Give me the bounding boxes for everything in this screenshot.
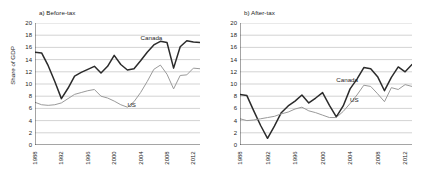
y-tick-label: 6 bbox=[19, 105, 32, 111]
series-label-us: US bbox=[127, 101, 136, 108]
y-tick-label: 2 bbox=[224, 130, 237, 136]
x-tick-label: 2004 bbox=[138, 151, 144, 164]
x-tick-label: 2004 bbox=[347, 151, 353, 164]
x-tick-label: 2008 bbox=[375, 151, 381, 164]
y-axis-label: Share of GDP bbox=[9, 36, 16, 96]
y-tick-label: 8 bbox=[19, 93, 32, 99]
series-line-canada bbox=[35, 41, 200, 99]
y-tick-label: 18 bbox=[19, 32, 32, 38]
y-tick-label: 2 bbox=[19, 130, 32, 136]
x-tick-label: 1992 bbox=[58, 151, 64, 164]
y-tick-label: 10 bbox=[19, 81, 32, 87]
y-tick-label: 12 bbox=[224, 69, 237, 75]
series-label-canada: Canada bbox=[336, 76, 358, 83]
panel-b-title: b) After-tax bbox=[244, 9, 275, 16]
x-tick-label: 2000 bbox=[111, 151, 117, 164]
panel-after-tax: b) After-tax 201816141210864201988199219… bbox=[212, 0, 424, 174]
series-label-canada: Canada bbox=[141, 34, 163, 41]
y-tick-label: 20 bbox=[19, 20, 32, 26]
x-tick-label: 2000 bbox=[320, 151, 326, 164]
chart-svg-a bbox=[35, 23, 200, 145]
panel-a-title: a) Before-tax bbox=[39, 9, 75, 16]
chart-svg-b bbox=[240, 23, 412, 145]
y-tick-label: 4 bbox=[19, 118, 32, 124]
y-tick-label: 6 bbox=[224, 105, 237, 111]
x-tick-label: 1992 bbox=[265, 151, 271, 164]
y-tick-label: 0 bbox=[224, 142, 237, 148]
x-tick-label: 2008 bbox=[164, 151, 170, 164]
panel-before-tax: a) Before-tax Share of GDP 2018161412108… bbox=[0, 0, 212, 174]
x-tick-label: 1996 bbox=[85, 151, 91, 164]
x-tick-label: 1988 bbox=[32, 151, 38, 164]
series-line-us bbox=[240, 85, 412, 121]
x-tick-label: 2012 bbox=[402, 151, 408, 164]
series-line-us bbox=[35, 65, 200, 107]
series-line-canada bbox=[240, 64, 412, 138]
y-tick-label: 16 bbox=[224, 44, 237, 50]
y-tick-label: 14 bbox=[19, 57, 32, 63]
x-tick-label: 2012 bbox=[190, 151, 196, 164]
x-tick-label: 1996 bbox=[292, 151, 298, 164]
y-tick-label: 0 bbox=[19, 142, 32, 148]
plot-area-before-tax bbox=[35, 23, 200, 145]
y-tick-label: 10 bbox=[224, 81, 237, 87]
figure-two-panel-line-chart: a) Before-tax Share of GDP 2018161412108… bbox=[0, 0, 424, 174]
y-tick-label: 8 bbox=[224, 93, 237, 99]
y-tick-label: 4 bbox=[224, 118, 237, 124]
y-tick-label: 16 bbox=[19, 44, 32, 50]
series-label-us: US bbox=[350, 96, 359, 103]
y-tick-label: 14 bbox=[224, 57, 237, 63]
y-tick-label: 20 bbox=[224, 20, 237, 26]
x-tick-label: 1988 bbox=[237, 151, 243, 164]
y-tick-label: 12 bbox=[19, 69, 32, 75]
plot-area-after-tax bbox=[240, 23, 412, 145]
y-tick-label: 18 bbox=[224, 32, 237, 38]
